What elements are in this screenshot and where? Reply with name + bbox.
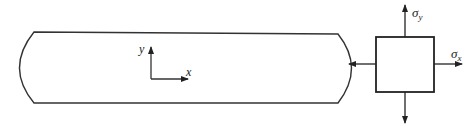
coordinate-axes: y x	[138, 42, 192, 79]
sigma-x-subscript: x	[456, 53, 461, 63]
sigma-x-label: σx	[451, 46, 461, 63]
diagram-canvas: y x σy σx	[0, 0, 475, 132]
sigma-y-label: σy	[412, 5, 422, 22]
element-square	[376, 37, 434, 92]
sigma-y-subscript: y	[417, 12, 422, 22]
y-axis-label: y	[138, 42, 145, 56]
x-axis-label: x	[185, 65, 192, 79]
stress-element: σy σx	[349, 5, 462, 123]
